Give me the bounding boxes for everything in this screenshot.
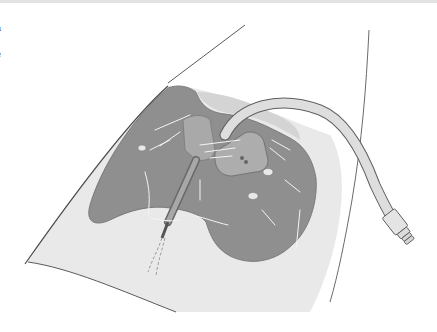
dressing-hole <box>248 193 258 200</box>
dressing-hole <box>263 169 273 176</box>
dressing-illustration <box>0 0 437 332</box>
luer-connector <box>382 208 417 246</box>
limb-outline <box>168 25 245 83</box>
dressing-hole <box>138 145 146 151</box>
pad-dot <box>244 160 248 164</box>
pad-dot <box>240 156 244 160</box>
